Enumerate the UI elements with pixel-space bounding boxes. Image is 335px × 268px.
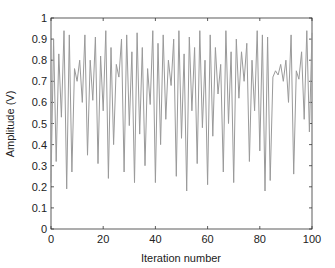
x-tick-label: 100	[303, 233, 321, 245]
y-tick-label: 0.6	[32, 96, 47, 108]
y-axis-label: Amplitude (V)	[4, 91, 16, 158]
y-tick-label: 1	[41, 12, 47, 24]
y-tick-label: 0.3	[32, 160, 47, 172]
x-tick-label: 60	[201, 233, 213, 245]
y-tick-label: 0.7	[32, 75, 47, 87]
x-axis-label: Iteration number	[141, 252, 221, 264]
y-tick-label: 0.8	[32, 54, 47, 66]
x-tick-label: 20	[97, 233, 109, 245]
y-tick-label: 0	[41, 223, 47, 235]
line-chart: 00.10.20.30.40.50.60.70.80.91 0204060801…	[0, 0, 335, 268]
y-tick-label: 0.9	[32, 33, 47, 45]
x-tick-label: 80	[254, 233, 266, 245]
y-tick-label: 0.1	[32, 202, 47, 214]
y-tick-label: 0.5	[32, 118, 47, 130]
x-tick-label: 40	[149, 233, 161, 245]
y-tick-label: 0.2	[32, 181, 47, 193]
y-tick-label: 0.4	[32, 139, 47, 151]
x-tick-label: 0	[48, 233, 54, 245]
